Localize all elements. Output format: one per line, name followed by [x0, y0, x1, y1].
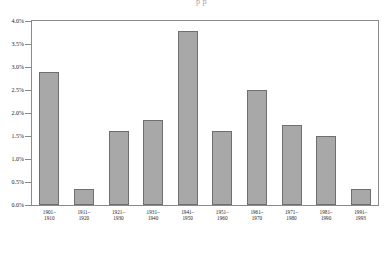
bar-chart: p p 0.0%0.5%1.0%1.5%2.0%2.5%3.0%3.5%4.0%… [0, 0, 387, 255]
y-axis-tick [25, 44, 31, 45]
y-axis-label: 3.5% [0, 41, 24, 47]
y-axis-tick [25, 90, 31, 91]
plot-area [32, 21, 378, 205]
y-axis-label: 4.0% [0, 18, 24, 24]
bar [247, 90, 267, 205]
page-bleed-text: p p [196, 0, 386, 8]
y-axis-tick [25, 67, 31, 68]
y-axis-label: 2.0% [0, 110, 24, 116]
y-axis-tick [25, 159, 31, 160]
bar [282, 125, 302, 206]
bar [109, 131, 129, 205]
y-axis-tick [25, 113, 31, 114]
y-axis-label: 1.5% [0, 133, 24, 139]
y-axis-tick [25, 21, 31, 22]
x-axis-label-line: 1993 [338, 215, 384, 221]
bar [178, 31, 198, 205]
y-axis-tick [25, 136, 31, 137]
y-axis-tick [25, 205, 31, 206]
bar [316, 136, 336, 205]
y-axis-tick [25, 182, 31, 183]
bar [143, 120, 163, 205]
y-axis-label: 1.0% [0, 156, 24, 162]
bar [212, 131, 232, 205]
bar [351, 189, 371, 205]
y-axis-label: 0.5% [0, 179, 24, 185]
y-axis-label: 3.0% [0, 64, 24, 70]
bar [39, 72, 59, 205]
y-axis-label: 0.0% [0, 202, 24, 208]
y-axis-label: 2.5% [0, 87, 24, 93]
bar [74, 189, 94, 205]
x-axis-label: 1991–1993 [338, 209, 384, 222]
